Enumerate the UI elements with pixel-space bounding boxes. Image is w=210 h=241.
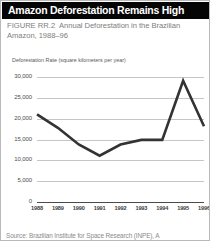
page-title: Amazon Deforestation Remains High [8, 4, 184, 16]
figure-number: FIGURE RR.2 [7, 21, 55, 30]
header-bar: Amazon Deforestation Remains High [2, 2, 209, 19]
series-line-svg [1, 57, 209, 217]
deforestation-rate-line [37, 81, 204, 156]
source-note: Source: Brazilian Institute for Space Re… [6, 232, 208, 241]
plot-area: 05,00010,00015,00020,00025,00030,0001988… [1, 57, 209, 217]
chart: Deforestation Rate (square kilometers pe… [1, 57, 209, 217]
figure-card: Amazon Deforestation Remains High FIGURE… [0, 0, 210, 241]
figure-caption: FIGURE RR.2Annual Deforestation in the B… [7, 21, 205, 41]
